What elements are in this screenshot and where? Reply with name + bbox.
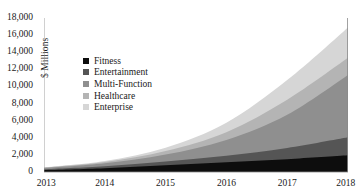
y-axis-tick-label: 4,000: [12, 133, 33, 143]
x-axis-tick-label: 2017: [278, 178, 297, 188]
legend-swatch-icon: [83, 104, 89, 110]
x-axis-tick-label: 2013: [37, 178, 56, 188]
y-axis-tick-label: 2,000: [12, 150, 33, 160]
legend-item-label: Multi-Function: [94, 79, 152, 89]
x-axis-tick-labels: 201320142015201620172018: [0, 178, 360, 192]
x-axis-tick-label: 2015: [156, 178, 175, 188]
legend-item-label: Enterprise: [94, 102, 133, 112]
legend-item-label: Healthcare: [94, 91, 135, 101]
y-axis-tick-label: 6,000: [12, 116, 33, 126]
chart-legend: FitnessEntertainmentMulti-FunctionHealth…: [83, 55, 193, 113]
y-axis-tick-label: 10,000: [7, 82, 33, 92]
y-axis-tick-labels: 02,0004,0006,0008,00010,00012,00014,0001…: [0, 0, 36, 196]
legend-item-label: Entertainment: [94, 67, 148, 77]
x-axis-tick-label: 2014: [95, 178, 114, 188]
legend-item[interactable]: Entertainment: [83, 67, 193, 79]
y-axis-tick-label: 12,000: [7, 65, 33, 75]
y-axis-tick-label: 16,000: [7, 30, 33, 40]
y-axis-tick-label: 14,000: [7, 47, 33, 57]
y-axis-tick-label: 18,000: [7, 13, 33, 23]
legend-item[interactable]: Healthcare: [83, 90, 193, 102]
legend-item[interactable]: Enterprise: [83, 101, 193, 113]
y-axis-tick-label: 0: [28, 167, 33, 177]
legend-item[interactable]: Multi-Function: [83, 78, 193, 90]
legend-item-label: Fitness: [94, 56, 121, 66]
x-axis-tick-label: 2016: [217, 178, 236, 188]
x-axis-tick-label: 2018: [336, 178, 355, 188]
legend-swatch-icon: [83, 58, 89, 64]
legend-swatch-icon: [83, 69, 89, 75]
legend-item[interactable]: Fitness: [83, 55, 193, 67]
y-axis-tick-label: 8,000: [12, 99, 33, 109]
legend-swatch-icon: [83, 81, 89, 87]
legend-swatch-icon: [83, 93, 89, 99]
stacked-area-chart: $ Millions 02,0004,0006,0008,00010,00012…: [0, 0, 360, 196]
